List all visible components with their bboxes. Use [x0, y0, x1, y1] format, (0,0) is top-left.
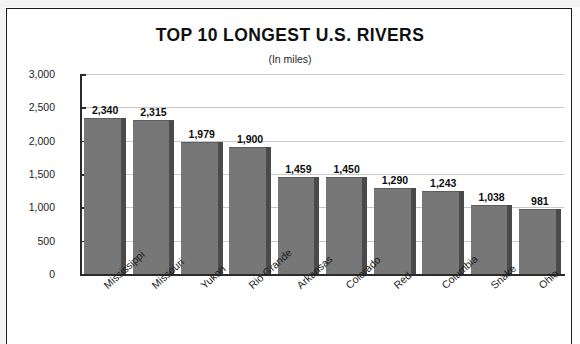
y-tick-label: 0 — [49, 268, 55, 280]
y-tick-label: 3,000 — [29, 68, 55, 80]
bar-side-shade — [266, 147, 271, 274]
bar-slot: 1,979 — [181, 74, 223, 274]
bar-slot: 1,459 — [278, 74, 320, 274]
bar-slot: 1,450 — [326, 74, 368, 274]
scan-edge-top — [0, 0, 580, 7]
bar-value-label: 1,900 — [237, 133, 263, 145]
bar-slot: 1,038 — [471, 74, 513, 274]
bar-value-label: 1,243 — [430, 177, 456, 189]
y-tick-label: 2,500 — [29, 101, 55, 113]
bar[interactable] — [519, 209, 561, 274]
bar-side-shade — [218, 142, 223, 274]
y-tick-label: 1,000 — [29, 201, 55, 213]
bar-side-shade — [169, 120, 174, 274]
y-tick-label: 500 — [37, 235, 55, 247]
bar-value-label: 1,459 — [285, 163, 311, 175]
bar-side-shade — [556, 209, 561, 274]
bar-value-label: 1,450 — [334, 163, 360, 175]
chart-subtitle: (In miles) — [7, 53, 573, 65]
bar-value-label: 2,315 — [140, 106, 166, 118]
page-canvas: TOP 10 LONGEST U.S. RIVERS (In miles) Le… — [0, 0, 580, 344]
bar-value-label: 981 — [531, 195, 549, 207]
chart-frame: TOP 10 LONGEST U.S. RIVERS (In miles) Le… — [6, 8, 572, 344]
bar-slot: 1,290 — [374, 74, 416, 274]
bar-value-label: 1,979 — [189, 128, 215, 140]
bar[interactable] — [422, 191, 464, 274]
chart-title: TOP 10 LONGEST U.S. RIVERS — [7, 25, 573, 46]
bar-slot: 2,340 — [84, 74, 126, 274]
bar-slot: 1,243 — [422, 74, 464, 274]
x-axis-labels: MississippiMissouriYukonRio GrandeArkans… — [81, 276, 571, 344]
bar[interactable] — [181, 142, 223, 274]
bar-value-label: 1,038 — [478, 191, 504, 203]
bar-value-label: 2,340 — [92, 104, 118, 116]
bar[interactable] — [229, 147, 271, 274]
bar-value-label: 1,290 — [382, 174, 408, 186]
bar-side-shade — [121, 118, 126, 274]
bar-side-shade — [411, 188, 416, 274]
y-tick-label: 1,500 — [29, 168, 55, 180]
bar-slot: 2,315 — [133, 74, 175, 274]
y-tick-label: 2,000 — [29, 135, 55, 147]
bar-slot: 981 — [519, 74, 561, 274]
scan-edge-left — [0, 0, 5, 344]
bar-slot: 1,900 — [229, 74, 271, 274]
bar-series: 2,3402,3151,9791,9001,4591,4501,2901,243… — [81, 74, 564, 274]
plot-area: 3,0002,5002,0001,5001,0005000 2,3402,315… — [81, 74, 564, 274]
bar[interactable] — [84, 118, 126, 274]
